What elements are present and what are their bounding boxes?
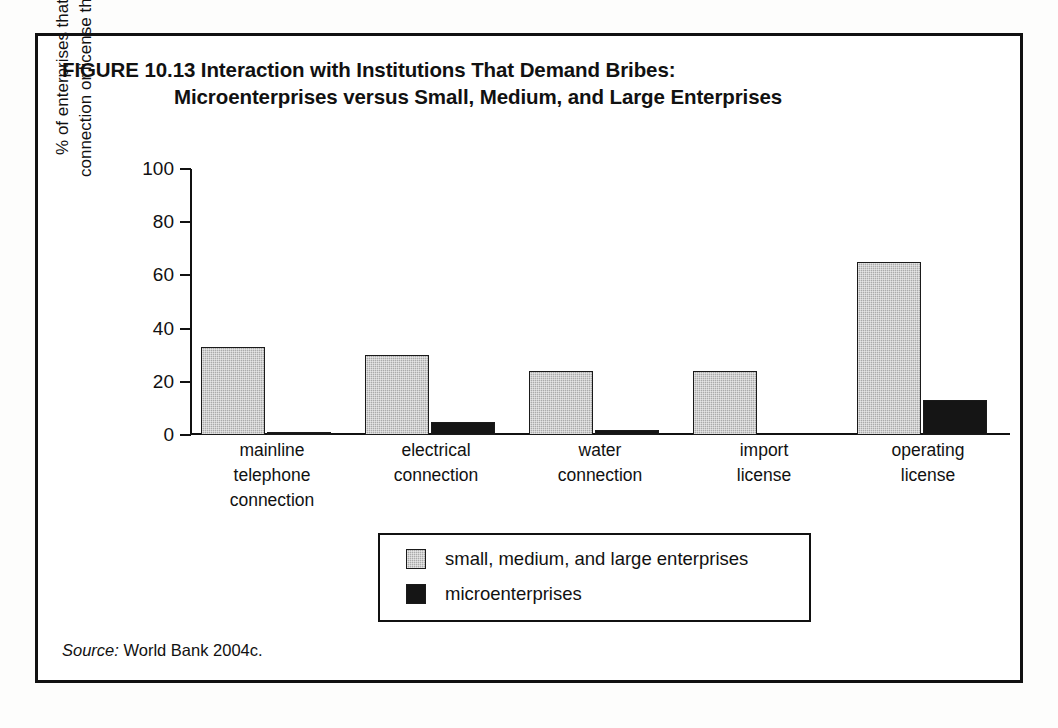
page-background: FIGURE 10.13 Interaction with Institutio… <box>0 0 1058 728</box>
category-label-line: mainline <box>190 438 354 463</box>
category-label-line: water <box>518 438 682 463</box>
y-tick-label-80: 80 <box>114 212 174 231</box>
y-tick-label-60: 60 <box>114 265 174 284</box>
category-label-line: operating <box>846 438 1010 463</box>
bar-series-a-2 <box>529 371 593 435</box>
category-label-line: electrical <box>354 438 518 463</box>
category-label-0: mainlinetelephoneconnection <box>190 438 354 513</box>
category-label-line: connection <box>190 488 354 513</box>
category-label-line: connection <box>354 463 518 488</box>
category-label-line: license <box>846 463 1010 488</box>
category-label-line: telephone <box>190 463 354 488</box>
y-tick-label-100: 100 <box>114 159 174 178</box>
bar-series-b-4 <box>923 400 987 435</box>
legend-swatch-icon-series-a <box>406 549 426 569</box>
x-axis-category-labels: mainlinetelephoneconnectionelectricalcon… <box>190 438 1010 528</box>
bar-series-b-0 <box>267 432 331 435</box>
bar-series-b-1 <box>431 422 495 435</box>
bar-series-b-2 <box>595 430 659 435</box>
legend-item-small-medium-large-enterprises: small, medium, and large enterprises <box>406 549 748 569</box>
y-axis-title: % of enterprises that obtained connectio… <box>52 0 98 177</box>
legend-swatch-icon-series-b <box>406 584 426 604</box>
legend-label-series-b: microenterprises <box>445 585 582 604</box>
bar-series-a-1 <box>365 355 429 435</box>
y-tick-label-0: 0 <box>114 425 174 444</box>
source-text: World Bank 2004c. <box>119 641 263 659</box>
category-label-2: waterconnection <box>518 438 682 488</box>
bar-series-a-0 <box>201 347 265 435</box>
y-tick-label-20: 20 <box>114 372 174 391</box>
chart-legend: small, medium, and large enterprises mic… <box>378 533 811 622</box>
bar-series-a-4 <box>857 262 921 435</box>
figure-frame: FIGURE 10.13 Interaction with Institutio… <box>35 33 1023 683</box>
y-tick-label-40: 40 <box>114 319 174 338</box>
category-label-4: operatinglicense <box>846 438 1010 488</box>
y-axis-title-line-2: connection or license through bribes <box>75 0 98 177</box>
legend-label-series-a: small, medium, and large enterprises <box>445 550 748 569</box>
y-axis-title-line-1: % of enterprises that obtained <box>52 0 75 177</box>
bars-layer <box>190 169 1010 435</box>
category-label-line: connection <box>518 463 682 488</box>
source-label: Source: <box>62 641 119 659</box>
bar-series-a-3 <box>693 371 757 435</box>
category-label-1: electricalconnection <box>354 438 518 488</box>
source-note: Source: World Bank 2004c. <box>62 641 263 660</box>
legend-item-microenterprises: microenterprises <box>406 584 582 604</box>
category-label-line: license <box>682 463 846 488</box>
category-label-3: importlicense <box>682 438 846 488</box>
category-label-line: import <box>682 438 846 463</box>
